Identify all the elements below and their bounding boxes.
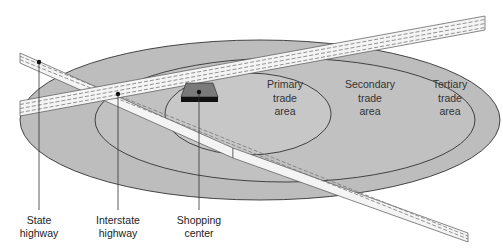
secondary-area-label: Secondary trade area <box>330 78 410 119</box>
state-highway-marker <box>37 60 41 64</box>
shopping-center-marker <box>197 90 201 94</box>
tertiary-area-label: Tertiary trade area <box>415 78 485 119</box>
primary-area-label: Primary trade area <box>250 78 320 119</box>
interstate-highway-marker <box>116 92 120 96</box>
trade-area-diagram <box>0 0 503 250</box>
state-highway-label: State highway <box>9 214 69 240</box>
interstate-highway-label: Interstate highway <box>88 214 148 240</box>
shopping-center-label: Shopping center <box>169 214 229 240</box>
